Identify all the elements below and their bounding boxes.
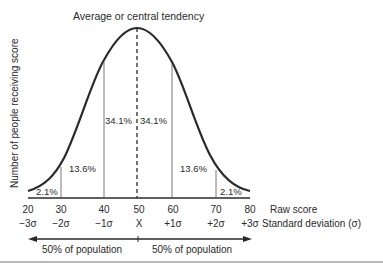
x-tick: 40 (98, 204, 110, 215)
pct-label: 13.6% (69, 163, 96, 174)
arrow-right-icon (243, 236, 252, 242)
sigma-tick: +1σ (164, 218, 182, 229)
x-tick: 50 (133, 204, 145, 215)
normal-distribution-chart: Average or central tendency Number of pe… (0, 0, 383, 269)
std-dev-label: Standard deviation (σ) (262, 218, 361, 229)
pct-label: 34.1% (140, 115, 167, 126)
sigma-tick: −1σ (95, 218, 113, 229)
x-tick: 20 (22, 204, 34, 215)
sigma-tick: X (136, 218, 143, 229)
x-tick: 80 (244, 204, 256, 215)
pct-label: 34.1% (105, 115, 132, 126)
sigma-tick: −3σ (19, 218, 37, 229)
sigma-tick: +2σ (207, 218, 225, 229)
y-axis-label: Number of people receiving score (9, 38, 20, 188)
sigma-tick: +3σ (241, 218, 259, 229)
x-tick: 60 (167, 204, 179, 215)
raw-score-label: Raw score (270, 204, 318, 215)
pct-label: 2.1% (36, 186, 58, 197)
arrow-left-icon (28, 236, 37, 242)
bell-curve (28, 28, 250, 191)
population-left-label: 50% of population (42, 244, 122, 255)
pct-label: 2.1% (220, 186, 242, 197)
population-right-label: 50% of population (152, 244, 232, 255)
sigma-tick: −2σ (52, 218, 70, 229)
x-tick: 70 (210, 204, 222, 215)
chart-title: Average or central tendency (73, 10, 205, 22)
pct-label: 13.6% (180, 163, 207, 174)
x-tick: 30 (55, 204, 67, 215)
